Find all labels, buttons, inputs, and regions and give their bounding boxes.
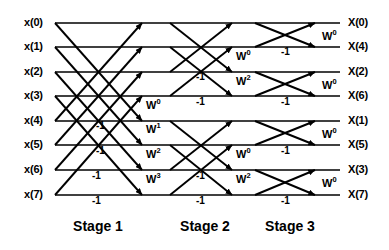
minus-one-label-9: -1 xyxy=(281,96,290,107)
input-label-5: x(5) xyxy=(24,138,43,150)
minus-one-label-6: -1 xyxy=(196,170,205,181)
input-label-3: x(3) xyxy=(24,89,43,101)
input-label-7: x(7) xyxy=(24,188,43,200)
input-label-6: x(6) xyxy=(24,163,43,175)
output-label-2: X(2) xyxy=(348,65,368,77)
stage-label-2: Stage 2 xyxy=(165,218,245,234)
twiddle-factor-3: W3 xyxy=(146,173,161,185)
minus-one-label-8: -1 xyxy=(281,46,290,57)
minus-one-label-3: -1 xyxy=(92,195,101,206)
output-label-6: X(3) xyxy=(348,163,368,175)
twiddle-factor-10: W0 xyxy=(322,128,337,140)
twiddle-factor-9: W0 xyxy=(322,79,337,91)
output-label-0: X(0) xyxy=(348,16,368,28)
twiddle-factor-0: W0 xyxy=(146,99,161,111)
twiddle-factor-11: W0 xyxy=(322,177,337,189)
input-label-4: x(4) xyxy=(24,114,43,126)
twiddle-factor-4: W0 xyxy=(236,50,251,62)
minus-one-label-4: -1 xyxy=(196,71,205,82)
stage-label-3: Stage 3 xyxy=(250,218,330,234)
output-label-3: X(6) xyxy=(348,89,368,101)
output-label-4: X(1) xyxy=(348,114,368,126)
output-label-5: X(5) xyxy=(348,138,368,150)
minus-one-label-11: -1 xyxy=(281,195,290,206)
output-label-7: X(7) xyxy=(348,188,368,200)
minus-one-label-0: -1 xyxy=(96,120,105,131)
twiddle-factor-1: W1 xyxy=(146,123,161,135)
twiddle-factor-7: W2 xyxy=(236,173,251,185)
input-label-2: x(2) xyxy=(24,65,43,77)
twiddle-factor-5: W2 xyxy=(236,75,251,87)
minus-one-label-7: -1 xyxy=(196,195,205,206)
twiddle-factor-8: W0 xyxy=(322,30,337,42)
fft-butterfly-diagram: x(0)x(1)x(2)x(3)x(4)x(5)x(6)x(7) X(0)X(4… xyxy=(0,0,389,250)
input-label-1: x(1) xyxy=(24,40,43,52)
twiddle-factor-6: W0 xyxy=(236,148,251,160)
minus-one-label-1: -1 xyxy=(96,145,105,156)
minus-one-label-2: -1 xyxy=(92,170,101,181)
output-label-1: X(4) xyxy=(348,40,368,52)
minus-one-label-10: -1 xyxy=(281,145,290,156)
twiddle-factor-2: W2 xyxy=(146,148,161,160)
input-label-0: x(0) xyxy=(24,16,43,28)
minus-one-label-5: -1 xyxy=(196,96,205,107)
stage-label-1: Stage 1 xyxy=(58,218,138,234)
